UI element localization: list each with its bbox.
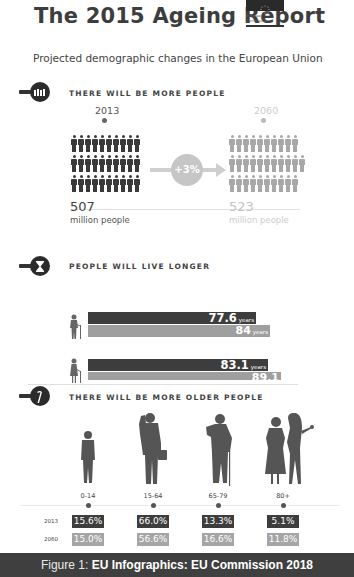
- pct-2060: 16.6%: [202, 533, 234, 546]
- person-icon: [92, 175, 98, 192]
- elderly-woman-icon: [69, 358, 83, 383]
- person-icon: [264, 155, 270, 172]
- bar-value: 77.6: [208, 311, 236, 325]
- person-icon: [236, 175, 242, 192]
- bar-unit: years: [253, 329, 268, 335]
- crowd-row: [229, 175, 305, 192]
- person-icon: [243, 155, 249, 172]
- figure-caption: Figure 1: EU Infographics: EU Commission…: [0, 553, 354, 577]
- population-2013-value: 507: [70, 199, 95, 214]
- person-icon: [78, 155, 84, 172]
- person-icon: [134, 175, 140, 192]
- person-icon: [113, 135, 119, 152]
- crowd-row: [71, 155, 140, 172]
- person-icon: [278, 155, 284, 172]
- report-subtitle: Projected demographic changes in the Eur…: [33, 52, 323, 64]
- person-icon: [120, 175, 126, 192]
- bar-unit: years: [239, 317, 254, 323]
- person-icon: [264, 175, 270, 192]
- age-group-dot: [151, 503, 156, 508]
- person-icon: [120, 135, 126, 152]
- person-icon: [236, 135, 242, 152]
- person-icon: [271, 135, 277, 152]
- year-start-label: 2013: [95, 105, 119, 116]
- person-icon: [106, 175, 112, 192]
- european-commission-logo: European Commission: [246, 0, 286, 34]
- person-icon: [264, 135, 270, 152]
- hourglass-icon: [19, 256, 51, 276]
- person-icon: [271, 175, 277, 192]
- bar-unit: years: [251, 364, 266, 370]
- section-heading-more-people: THERE WILL BE MORE PEOPLE: [69, 89, 225, 98]
- population-2060-value: 523: [229, 199, 254, 214]
- person-icon: [278, 135, 284, 152]
- growth-badge: +3%: [171, 154, 203, 186]
- age-group-dot: [86, 503, 91, 508]
- logo-line-2: Commission: [246, 19, 286, 24]
- very-old-with-carer-icon: [264, 413, 316, 487]
- crowd-row: [229, 135, 305, 152]
- age-group-label: 15-64: [133, 492, 173, 500]
- bar-value: 89.1: [252, 372, 279, 380]
- male-lifespan-2013-bar: 77.6years: [88, 312, 256, 324]
- person-icon: [250, 175, 256, 192]
- population-2060-unit: million people: [229, 215, 289, 225]
- person-icon: [78, 135, 84, 152]
- person-icon: [85, 155, 91, 172]
- person-icon: [285, 175, 291, 192]
- pct-2060: 56.6%: [137, 533, 169, 546]
- year-end-dot: [261, 118, 266, 123]
- person-icon: [113, 155, 119, 172]
- person-icon: [257, 155, 263, 172]
- person-icon: [257, 175, 263, 192]
- pct-2060: 15.0%: [72, 533, 104, 546]
- person-icon: [99, 135, 105, 152]
- person-icon: [127, 135, 133, 152]
- person-icon: [292, 155, 298, 172]
- logo-text: European Commission: [246, 14, 286, 23]
- arrow-right-icon: [216, 163, 226, 177]
- person-icon: [299, 155, 305, 172]
- person-icon: [250, 135, 256, 152]
- bar-value: 83.1: [220, 358, 248, 372]
- person-icon: [127, 155, 133, 172]
- crowd-icon: [19, 82, 51, 102]
- age-group-label: 80+: [263, 492, 303, 500]
- person-icon: [71, 155, 77, 172]
- person-icon: [250, 155, 256, 172]
- person-icon: [85, 175, 91, 192]
- working-adult-icon: [138, 412, 168, 486]
- person-icon: [134, 135, 140, 152]
- person-icon: [106, 155, 112, 172]
- female-lifespan-2060-bar: 89.1: [88, 372, 281, 380]
- divider: [70, 209, 300, 210]
- age-group-dot: [216, 503, 221, 508]
- child-icon: [78, 430, 98, 486]
- section-heading-older-people: THERE WILL BE MORE OLDER PEOPLE: [69, 393, 264, 402]
- caption-prefix: Figure 1:: [41, 558, 92, 572]
- person-icon: [127, 175, 133, 192]
- pct-2013: 13.3%: [202, 515, 234, 528]
- person-icon: [71, 135, 77, 152]
- person-icon: [292, 175, 298, 192]
- eu-flag-icon: [246, 0, 284, 11]
- year-end-label: 2060: [254, 105, 278, 116]
- person-icon: [257, 135, 263, 152]
- person-icon: [71, 175, 77, 192]
- person-icon: [92, 135, 98, 152]
- logo-underline: [246, 25, 284, 27]
- pct-2013: 15.6%: [72, 515, 104, 528]
- row-label-2013: 2013: [44, 518, 58, 524]
- pct-2060: 11.8%: [267, 533, 299, 546]
- age-axis: [20, 505, 340, 506]
- population-2013-crowd: [71, 135, 140, 195]
- crowd-row: [229, 155, 305, 172]
- person-icon: [292, 135, 298, 152]
- population-2013-unit: million people: [70, 215, 130, 225]
- age-group-label: 65-79: [198, 492, 238, 500]
- crowd-row: [71, 175, 140, 192]
- crowd-row: [71, 135, 140, 152]
- person-icon: [271, 155, 277, 172]
- pct-2013: 5.1%: [267, 515, 299, 528]
- person-icon: [106, 135, 112, 152]
